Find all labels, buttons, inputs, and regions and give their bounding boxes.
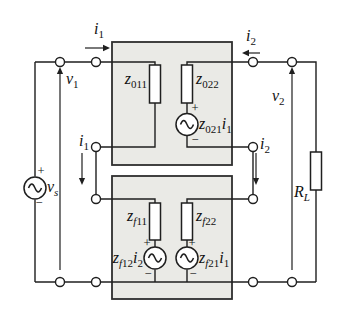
v2-voltage-arrow-icon: [289, 67, 295, 270]
z011-impedance: [150, 65, 161, 103]
label-zf21i1: zf21i1: [199, 250, 229, 266]
label-rl: RL: [294, 184, 310, 200]
label-vs: vs: [47, 179, 58, 195]
terminal: [249, 58, 258, 67]
terminal: [56, 58, 65, 67]
label-z011: z011: [125, 71, 147, 87]
i1-inner-current-arrow-icon: [79, 153, 85, 185]
terminal: [92, 58, 101, 67]
i1-current-arrow-icon: [85, 45, 110, 51]
zf11-impedance: [150, 203, 161, 240]
zf12i2-source-icon: [144, 247, 166, 269]
z021-plus-mark: +: [191, 102, 198, 115]
feedback-network-box: [112, 176, 232, 299]
terminal: [288, 58, 297, 67]
terminal: [92, 143, 101, 152]
label-v1: v1: [66, 71, 79, 87]
i2-current-arrow-icon: [242, 50, 260, 56]
z022-impedance: [182, 65, 193, 103]
i2-inner-current-arrow-icon: [253, 153, 259, 185]
label-i1-inner: i1: [79, 133, 89, 149]
label-z021i1: z021i1: [199, 116, 232, 132]
zf21i1-source-icon: [176, 247, 198, 269]
label-zf22: zf22: [196, 208, 216, 224]
label-zf12i2: zf12i2: [113, 250, 143, 266]
vs-plus-mark: +: [37, 165, 44, 178]
terminal: [92, 278, 101, 287]
label-v2: v2: [272, 88, 285, 104]
terminal: [288, 278, 297, 287]
zf21-plus-mark: +: [188, 237, 195, 250]
schematic-canvas: [0, 0, 345, 315]
zf12-plus-mark: +: [143, 237, 150, 250]
v1-voltage-arrow-icon: [57, 67, 63, 270]
label-i1-input: i1: [94, 21, 104, 37]
vs-minus-mark: −: [35, 197, 42, 210]
label-i2-output: i2: [246, 28, 256, 44]
zf21-minus-mark: −: [189, 268, 196, 281]
label-z022: z022: [196, 71, 219, 87]
terminal: [56, 278, 65, 287]
terminal: [249, 278, 258, 287]
rl-load-resistor: [311, 152, 322, 190]
label-zf11: zf11: [127, 208, 147, 224]
terminal: [92, 195, 101, 204]
terminal: [249, 143, 258, 152]
label-i2-inner: i2: [260, 136, 270, 152]
zf12-minus-mark: −: [144, 268, 151, 281]
terminal: [249, 195, 258, 204]
z021-minus-mark: −: [191, 134, 198, 147]
circuit-diagram: i1 i2 v1 v2 vs RL z011 z022 z021i1 zf11 …: [0, 0, 345, 315]
zf22-impedance: [182, 203, 193, 240]
